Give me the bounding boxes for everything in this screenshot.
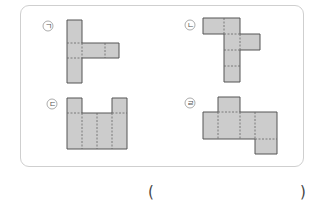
net-label: ㄱ [45,22,52,31]
nets-figure: ㄱ ㄴ ㄷ [0,0,323,212]
net-giyeok: ㄱ [43,20,119,83]
net-digeut: ㄷ [47,98,127,149]
net-label: ㄴ [187,21,194,30]
net-outline [203,97,277,154]
answer-paren-close: ) [300,183,306,201]
net-label: ㄹ [187,99,194,108]
net-nieun: ㄴ [185,18,260,82]
answer-paren-open: ( [148,183,154,201]
net-outline [67,20,119,83]
net-rieul: ㄹ [185,97,277,154]
net-label: ㄷ [49,100,56,109]
